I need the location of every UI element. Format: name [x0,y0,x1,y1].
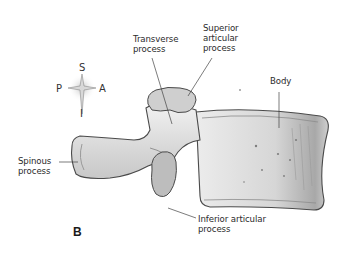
compass-inferior-label: I [80,109,83,119]
vertebra-diagram: S I P A Transverse process Superior arti… [0,0,345,260]
superior-articular-process-shape [148,87,196,112]
panel-label: B [73,225,82,239]
compass-anterior-label: A [99,84,106,94]
label-spinous-process: Spinous process [18,156,51,176]
label-inferior-articular-process: Inferior articular process [198,214,266,234]
label-body: Body [270,76,291,86]
label-transverse-process: Transverse process [133,34,178,54]
compass-superior-label: S [79,63,85,73]
compass-posterior-label: P [56,84,62,94]
label-superior-articular-process: Superior articular process [203,23,239,53]
neural-arch-shape [72,103,201,178]
vertebral-body-shape [196,110,328,210]
inferior-articular-process-shape [152,152,177,197]
